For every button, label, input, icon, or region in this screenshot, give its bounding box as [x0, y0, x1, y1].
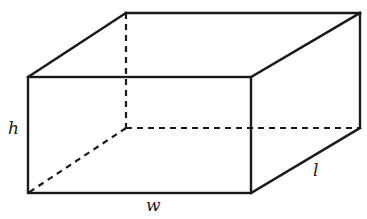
label-length: l — [313, 160, 318, 180]
edge-bottom-right-depth — [251, 128, 360, 193]
edge-top-right-depth — [251, 13, 360, 77]
rectangular-prism-diagram: h w l — [0, 0, 367, 219]
hidden-edge-depth-bottom-left — [28, 128, 126, 193]
front-face — [28, 77, 251, 193]
label-width: w — [146, 195, 161, 215]
label-height: h — [8, 118, 19, 138]
edge-top-left-depth — [28, 13, 126, 77]
